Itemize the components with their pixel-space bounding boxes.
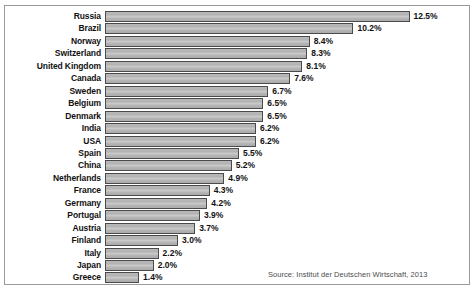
bar-value-label: 4.3% — [210, 185, 233, 196]
bar-category-label: Norway — [5, 36, 101, 47]
bar-value-label: 2.2% — [159, 248, 182, 259]
bar-row: Spain5.5% — [5, 148, 469, 159]
bar — [105, 136, 256, 147]
bar-row: Canada7.6% — [5, 73, 469, 84]
bar-row: Germany4.2% — [5, 198, 469, 209]
bar-value-label: 8.4% — [310, 36, 333, 47]
bar-row: China5.2% — [5, 160, 469, 171]
bar-track: 4.9% — [105, 173, 467, 184]
bar-category-label: Finland — [5, 235, 101, 246]
bar-value-label: 8.1% — [302, 61, 325, 72]
bar-category-label: Italy — [5, 248, 101, 259]
bar-track: 5.2% — [105, 160, 467, 171]
bar — [105, 198, 207, 209]
bar-row: Finland3.0% — [5, 235, 469, 246]
bars-layer: Russia12.5%Brazil10.2%Norway8.4%Switzerl… — [5, 6, 469, 284]
bar-track: 3.0% — [105, 235, 467, 246]
bar-value-label: 10.2% — [353, 23, 381, 34]
bar — [105, 73, 290, 84]
bar-row: Belgium6.5% — [5, 98, 469, 109]
bar-track: 6.5% — [105, 98, 467, 109]
bar-row: Russia12.5% — [5, 11, 469, 22]
bar-category-label: Germany — [5, 198, 101, 209]
bar-value-label: 8.3% — [307, 48, 330, 59]
bar-category-label: Denmark — [5, 111, 101, 122]
bar-track: 8.1% — [105, 61, 467, 72]
bar-category-label: Greece — [5, 272, 101, 283]
bar-track: 6.2% — [105, 136, 467, 147]
bar-track: 5.5% — [105, 148, 467, 159]
bar-row: Norway8.4% — [5, 36, 469, 47]
bar-track: 6.7% — [105, 86, 467, 97]
bar-category-label: Spain — [5, 148, 101, 159]
bar-row: Switzerland8.3% — [5, 48, 469, 59]
bar-value-label: 6.2% — [256, 136, 279, 147]
bar — [105, 23, 353, 34]
bar-value-label: 3.7% — [195, 223, 218, 234]
bar-track: 6.2% — [105, 123, 467, 134]
bar — [105, 160, 232, 171]
bar-category-label: France — [5, 185, 101, 196]
bar — [105, 11, 410, 22]
bar-value-label: 2.0% — [154, 260, 177, 271]
bar-value-label: 6.2% — [256, 123, 279, 134]
bar-row: Brazil10.2% — [5, 23, 469, 34]
bar — [105, 61, 302, 72]
bar-value-label: 4.9% — [224, 173, 247, 184]
bar-value-label: 5.5% — [239, 148, 262, 159]
bar-track: 10.2% — [105, 23, 467, 34]
bar — [105, 148, 239, 159]
bar-category-label: United Kingdom — [5, 61, 101, 72]
bar — [105, 185, 210, 196]
bar-row: USA6.2% — [5, 136, 469, 147]
bar-value-label: 1.4% — [139, 272, 162, 283]
bar-row: France4.3% — [5, 185, 469, 196]
bar-row: Italy2.2% — [5, 248, 469, 259]
bar — [105, 36, 310, 47]
bar — [105, 248, 159, 259]
bar-category-label: Switzerland — [5, 48, 101, 59]
bar-value-label: 3.0% — [178, 235, 201, 246]
bar-track: 7.6% — [105, 73, 467, 84]
bar — [105, 235, 178, 246]
bar-track: 12.5% — [105, 11, 467, 22]
bar-category-label: Austria — [5, 223, 101, 234]
bar-value-label: 5.2% — [232, 160, 255, 171]
bar-value-label: 6.7% — [268, 86, 291, 97]
bar-value-label: 6.5% — [263, 111, 286, 122]
bar-category-label: Portugal — [5, 210, 101, 221]
bar-category-label: Japan — [5, 260, 101, 271]
plot-area-frame: Russia12.5%Brazil10.2%Norway8.4%Switzerl… — [4, 5, 470, 285]
bar-category-label: Netherlands — [5, 173, 101, 184]
bar-value-label: 6.5% — [263, 98, 286, 109]
bar-category-label: Russia — [5, 11, 101, 22]
bar — [105, 48, 307, 59]
bar — [105, 260, 154, 271]
bar-row: Sweden6.7% — [5, 86, 469, 97]
bar-track: 6.5% — [105, 111, 467, 122]
bar-track: 3.7% — [105, 223, 467, 234]
chart-figure: Russia12.5%Brazil10.2%Norway8.4%Switzerl… — [0, 0, 474, 297]
bar-row: Austria3.7% — [5, 223, 469, 234]
bar-track: 2.2% — [105, 248, 467, 259]
bar-row: Netherlands4.9% — [5, 173, 469, 184]
bar-category-label: USA — [5, 136, 101, 147]
bar-track: 4.3% — [105, 185, 467, 196]
bar-row: Denmark6.5% — [5, 111, 469, 122]
bar-row: United Kingdom8.1% — [5, 61, 469, 72]
bar-category-label: Belgium — [5, 98, 101, 109]
source-annotation: Source: Institut der Deutschen Wirtschaf… — [268, 270, 428, 279]
bar-value-label: 4.2% — [207, 198, 230, 209]
bar-track: 8.4% — [105, 36, 467, 47]
bar — [105, 86, 268, 97]
bar — [105, 98, 263, 109]
bar-row: India6.2% — [5, 123, 469, 134]
bar — [105, 272, 139, 283]
bar-track: 8.3% — [105, 48, 467, 59]
bar-row: Portugal3.9% — [5, 210, 469, 221]
bar-category-label: Canada — [5, 73, 101, 84]
bar-value-label: 3.9% — [200, 210, 223, 221]
bar — [105, 111, 263, 122]
bar-category-label: Sweden — [5, 86, 101, 97]
bar-track: 4.2% — [105, 198, 467, 209]
